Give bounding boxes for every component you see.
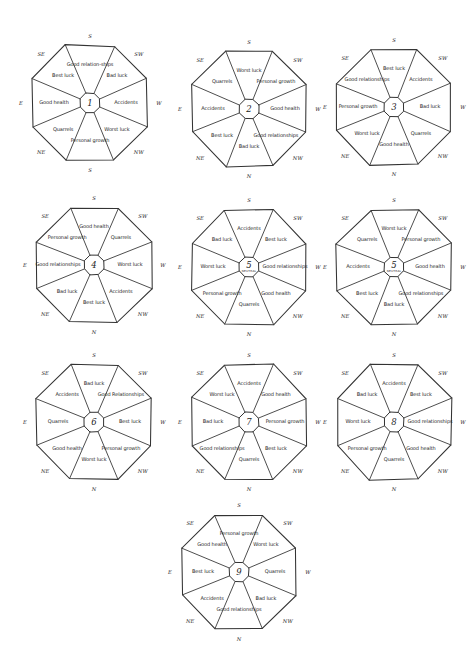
octagon-outline [14,24,166,182]
octagon-outline [18,186,170,344]
octagon-outline [318,343,470,501]
worksheet-page: Good relation-shipsBad luckAccidentsWors… [0,0,471,671]
octagon-outline [173,188,325,346]
octagon-chart: Bad luckGood RelationshipsBest luckPerso… [18,343,170,501]
octagon-outline [318,28,470,186]
octagon-chart: Good healthQuarrelsWorst luckAccidentsBe… [18,186,170,344]
octagon-chart: Best luckAccidentsBad luckQuarrelsGood h… [318,28,470,186]
octagon-chart: AccidentsGood healthPersonal growthBest … [173,343,325,501]
octagon-outline [318,188,470,346]
octagon-chart: Personal growthWorst luckQuarrelsBad luc… [163,493,315,651]
octagon-chart: Worst luckPersonal growthGood healthGood… [173,30,325,188]
octagon-chart: Good relation-shipsBad luckAccidentsWors… [14,24,166,182]
octagon-chart: AccidentsBest luckGood relationshipsGood… [173,188,325,346]
octagon-chart: AccidentsBest luckGood relationshipsGood… [318,343,470,501]
octagon-outline [18,343,170,501]
octagon-chart: Worst luckPersonal growthGood healthGood… [318,188,470,346]
octagon-outline [173,343,325,501]
octagon-outline [163,493,315,651]
octagon-outline [173,30,325,188]
octagon-grid: Good relation-shipsBad luckAccidentsWors… [0,0,471,671]
